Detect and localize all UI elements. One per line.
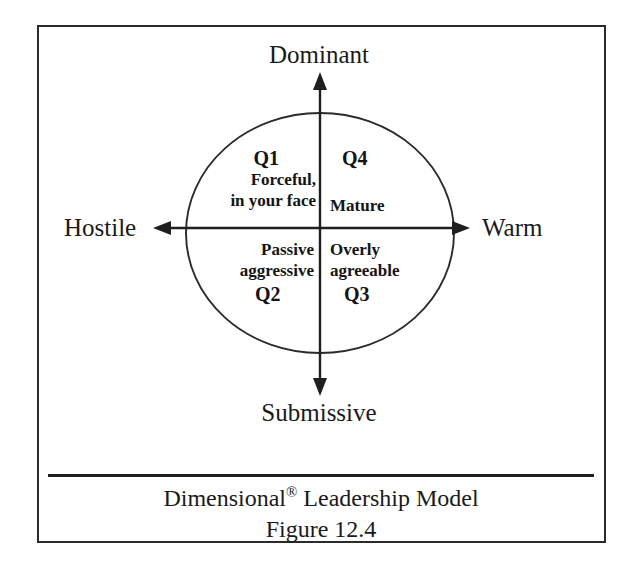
caption-figure-number: Figure 12.4 <box>40 514 602 545</box>
registered-trademark-icon: ® <box>286 484 297 500</box>
caption-divider-rule <box>48 474 594 477</box>
quadrant-q2: Passive aggressive Q2 <box>240 240 318 306</box>
quadrant-q1-desc-line2: in your face <box>230 191 316 212</box>
axis-label-warm: Warm <box>482 215 542 240</box>
quadrant-q3-id: Q3 <box>330 281 400 306</box>
quadrant-q2-desc-line1: Passive <box>240 240 314 261</box>
quadrant-q4: Q4 Mature <box>330 147 384 217</box>
quadrant-q1-desc-line1: Forceful, <box>230 170 316 191</box>
quadrant-q3: Overly agreeable Q3 <box>330 240 400 306</box>
caption-title-after: Leadership Model <box>297 485 478 511</box>
quadrant-q1: Q1 Forceful, in your face <box>230 147 318 211</box>
caption-title-before: Dimensional <box>163 485 286 511</box>
figure-caption: Dimensional® Leadership Model Figure 12.… <box>40 483 602 544</box>
axis-label-submissive: Submissive <box>0 400 638 425</box>
quadrant-q1-id: Q1 <box>230 147 316 170</box>
quadrant-q2-desc-line2: aggressive <box>240 261 314 282</box>
figure-border-box <box>37 25 606 543</box>
axis-label-hostile: Hostile <box>64 215 136 240</box>
quadrant-q3-desc-line2: agreeable <box>330 261 400 282</box>
quadrant-q4-id: Q4 <box>330 147 384 170</box>
quadrant-q2-id: Q2 <box>240 281 314 306</box>
quadrant-q3-desc-line1: Overly <box>330 240 400 261</box>
axis-label-dominant: Dominant <box>0 42 638 67</box>
figure-root: Dominant Submissive Hostile Warm Q1 Forc… <box>0 0 638 574</box>
quadrant-q4-desc-line1: Mature <box>330 170 384 217</box>
